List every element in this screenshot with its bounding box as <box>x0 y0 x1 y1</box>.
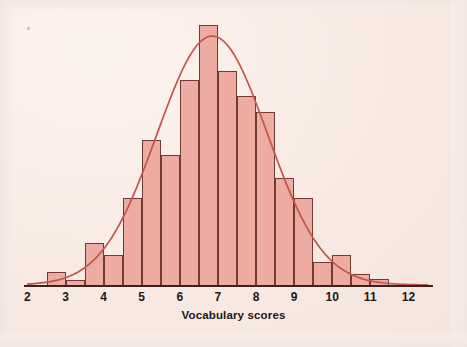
x-tick-label: 8 <box>241 290 271 304</box>
x-tick-label: 5 <box>127 290 157 304</box>
x-tick-label: 3 <box>51 290 81 304</box>
x-tick-label: 6 <box>165 290 195 304</box>
plot-area: 23456789101112 Vocabulary scores <box>0 0 467 347</box>
x-axis-line <box>24 285 434 287</box>
x-tick-label: 11 <box>355 290 385 304</box>
x-tick-label: 9 <box>279 290 309 304</box>
x-tick-label: 4 <box>89 290 119 304</box>
x-tick-label: 2 <box>13 290 43 304</box>
figure-histogram-vocabulary-scores: 23456789101112 Vocabulary scores <box>0 0 467 347</box>
x-axis-label: Vocabulary scores <box>0 309 467 321</box>
x-tick-label: 10 <box>317 290 347 304</box>
x-tick-label: 7 <box>203 290 233 304</box>
x-tick-label: 12 <box>394 290 424 304</box>
